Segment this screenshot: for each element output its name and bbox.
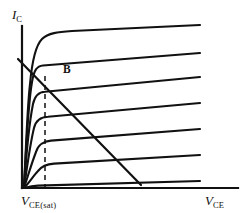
y-axis-subscript: C bbox=[16, 14, 22, 24]
vce-sat-symbol: V bbox=[21, 193, 29, 208]
curve-2 bbox=[24, 53, 200, 188]
x-axis-label-vce-sat: VCE(sat) bbox=[21, 194, 56, 207]
characteristic-curves-group bbox=[24, 25, 200, 188]
curve-5 bbox=[24, 129, 200, 188]
y-axis-label: IC bbox=[12, 8, 22, 21]
curve-4 bbox=[24, 103, 200, 188]
x-axis-label-vce: VCE bbox=[205, 194, 224, 207]
plot-svg bbox=[0, 0, 249, 213]
point-b-label: B bbox=[63, 64, 71, 76]
vce-subscript: CE bbox=[213, 200, 224, 210]
vce-sat-subscript: CE(sat) bbox=[29, 200, 56, 210]
vce-symbol: V bbox=[205, 193, 213, 208]
characteristic-curve-figure: IC VCE(sat) VCE B bbox=[0, 0, 249, 213]
